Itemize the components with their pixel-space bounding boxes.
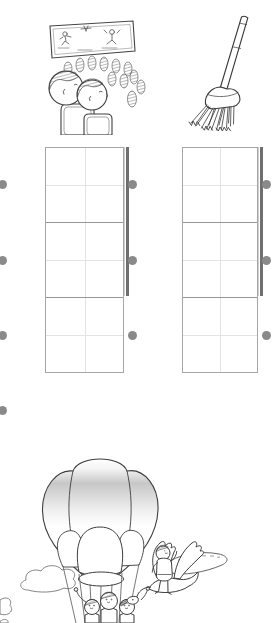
writing-grid-right xyxy=(182,147,258,373)
left-edge-dot-column xyxy=(0,147,10,447)
balloon-mouth-ring xyxy=(79,572,124,586)
rider-body xyxy=(156,558,172,581)
writing-cell xyxy=(183,222,257,297)
writing-cell xyxy=(183,297,257,372)
basket-children xyxy=(74,587,150,623)
writing-grid-right-cells xyxy=(182,147,258,373)
edge-match-dot xyxy=(0,256,7,265)
grid-left-rule-bar xyxy=(126,147,129,296)
hot-air-balloon-illustration xyxy=(0,440,276,623)
broom-illustration xyxy=(181,7,275,135)
match-dot xyxy=(128,331,137,340)
match-dot xyxy=(128,256,137,265)
match-dot xyxy=(262,331,271,340)
cinema-scene-illustration xyxy=(28,7,153,135)
cloud xyxy=(0,566,75,623)
writing-cell xyxy=(183,148,257,222)
broom-head xyxy=(205,87,240,109)
writing-cell xyxy=(46,222,123,297)
edge-match-dot xyxy=(0,406,7,415)
match-dot xyxy=(262,180,271,189)
writing-grid-left-cells xyxy=(45,147,124,373)
writing-grid-left xyxy=(45,147,124,373)
writing-cell xyxy=(46,297,123,372)
edge-match-dot xyxy=(0,180,7,189)
balloon-envelope xyxy=(42,459,158,586)
edge-match-dot xyxy=(0,331,7,340)
grid-right-rule-bar xyxy=(260,147,263,296)
movie-screen xyxy=(50,21,135,58)
match-dot xyxy=(128,180,137,189)
writing-cell xyxy=(46,148,123,222)
broom-handle xyxy=(221,16,248,89)
match-dot xyxy=(262,256,271,265)
worksheet-page xyxy=(0,0,276,623)
